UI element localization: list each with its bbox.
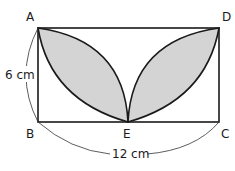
vertex-label-e: E — [123, 127, 131, 141]
vertex-label-b: B — [26, 127, 34, 141]
vertex-label-c: C — [221, 127, 229, 141]
vertex-label-d: D — [222, 10, 231, 24]
shaded-left-leaf — [38, 28, 128, 122]
width-dimension-arc-left — [38, 122, 110, 154]
geometry-diagram: A D B E C 6 cm 12 cm — [0, 0, 235, 171]
width-dimension-arc-right — [147, 122, 219, 154]
shaded-right-leaf — [128, 28, 219, 122]
vertex-label-a: A — [26, 10, 35, 24]
width-dimension-label: 12 cm — [112, 147, 149, 161]
height-dimension-label: 6 cm — [5, 68, 35, 82]
